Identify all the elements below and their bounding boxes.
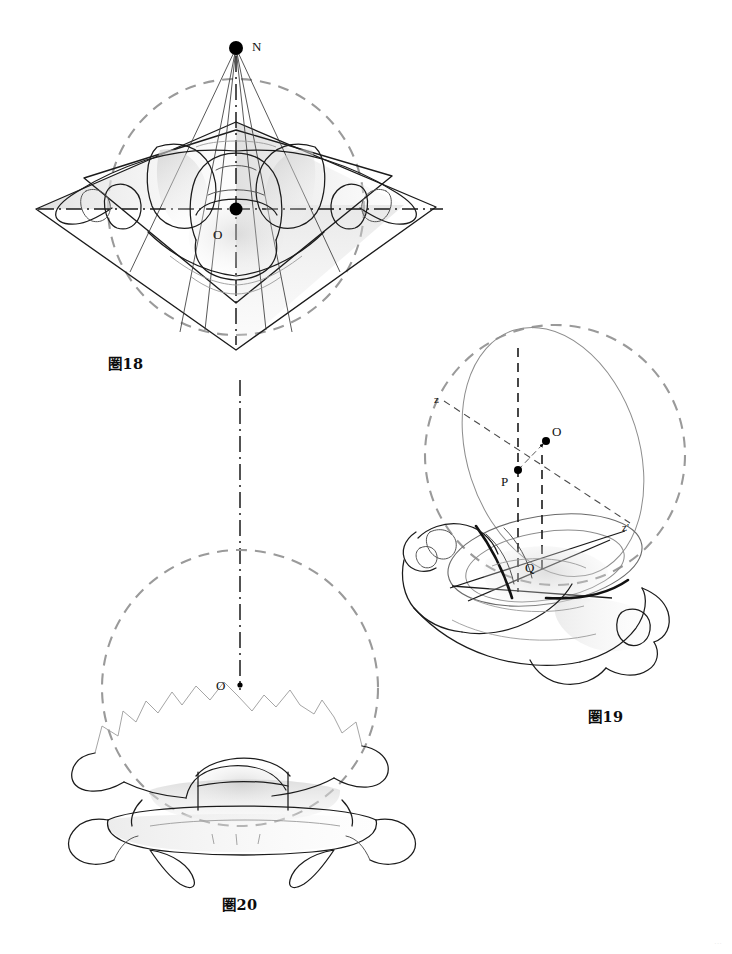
plate-canvas: N O [0, 0, 732, 954]
page-corner-mark: ··· [714, 939, 722, 948]
fig20-label-o: O [216, 678, 225, 693]
fig18-point-o-dot [230, 203, 243, 216]
fig18-point-n-dot [229, 41, 243, 55]
fig19-label-o: O [552, 424, 561, 439]
fig18-label-o: O [213, 227, 222, 242]
figure-19-caption: 圏19 [588, 705, 624, 726]
fig19-vertebra-drawing [402, 524, 669, 685]
figure-20-caption: 圏20 [222, 893, 258, 914]
fig19-label-z: z [434, 393, 439, 405]
fig19-label-q: Q [525, 560, 535, 575]
fig19-label-p: P [501, 474, 508, 489]
fig19-point-o-dot [542, 437, 550, 445]
figure-20-group: O [69, 550, 416, 887]
figure-18-group: N O [36, 39, 443, 350]
fig20-point-o-dot [237, 682, 242, 687]
fig19-vector-p-to-o [518, 444, 543, 470]
fig19-point-p-dot [514, 466, 522, 474]
figure-plate: N O [0, 0, 732, 954]
figure-18-caption: 圏18 [108, 352, 144, 373]
fig19-label-z-prime: z' [622, 521, 629, 533]
fig18-plane-shade-right-upper [236, 122, 404, 205]
fig18-label-n: N [252, 39, 262, 54]
fig19-axis-zz-prime [444, 401, 630, 523]
fig20-vertebra-drawing [69, 682, 416, 887]
figure-19-group: z z' O P Q [402, 304, 685, 685]
